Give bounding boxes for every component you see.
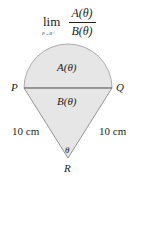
side-left-length: 10 cm [12, 126, 39, 137]
side-right-length: 10 cm [99, 126, 126, 137]
angle-theta-label: θ [65, 146, 69, 155]
region-b-label: B(θ) [57, 96, 76, 107]
point-p-label: P [11, 82, 18, 93]
point-q-label: Q [116, 82, 124, 93]
point-r-label: R [64, 163, 71, 174]
region-a-label: A(θ) [57, 62, 76, 73]
